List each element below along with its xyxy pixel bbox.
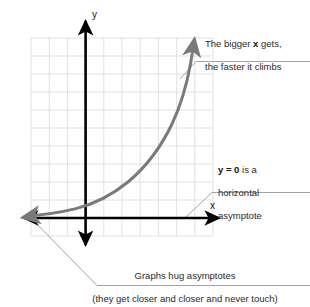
- asymptote-callout-equation: y = 0: [218, 164, 239, 175]
- growth-callout-line1-post: gets,: [258, 38, 281, 49]
- growth-callout-line1-pre: The bigger: [205, 38, 253, 49]
- exponential-graph-figure: y x The bigger x gets, the faster it cli…: [0, 0, 310, 307]
- y-axis-label: y: [92, 9, 97, 20]
- hug-callout-line2: (they get closer and closer and never to…: [92, 293, 277, 304]
- growth-callout: The bigger x gets, the faster it climbs: [205, 26, 309, 72]
- axes: [24, 21, 219, 245]
- asymptote-callout: y = 0 is a horizontal asymptote: [218, 152, 308, 221]
- asymptote-callout-line1-post: is a: [239, 164, 256, 175]
- asymptote-callout-line2: horizontal: [218, 187, 259, 198]
- x-axis-label: x: [210, 200, 215, 211]
- curve-arrow-left: [23, 216, 31, 217]
- grid-lines: [31, 38, 213, 236]
- asymptote-callout-line3: asymptote: [218, 210, 262, 221]
- curve-arrow-up: [191, 39, 195, 64]
- hug-callout: Graphs hug asymptotes (they get closer a…: [62, 258, 308, 304]
- hug-callout-line1: Graphs hug asymptotes: [135, 270, 236, 281]
- growth-callout-line2: the faster it climbs: [205, 61, 282, 72]
